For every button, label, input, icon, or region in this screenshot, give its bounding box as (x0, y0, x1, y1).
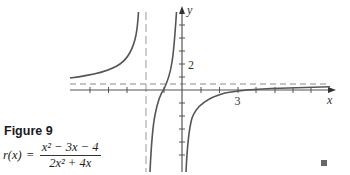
curve-right-branch (186, 87, 330, 172)
function-formula: r(x) = x² − 3x − 4 2x² + 4x (3, 141, 101, 170)
x-axis-label: x (326, 93, 333, 107)
y-tick-label-2: 2 (188, 58, 194, 72)
curve-left-branch (70, 12, 139, 78)
y-axis-label: y (186, 3, 193, 17)
y-axis-arrow-icon (179, 6, 185, 14)
formula-fraction: x² − 3x − 4 2x² + 4x (40, 141, 101, 170)
formula-denominator: 2x² + 4x (47, 156, 93, 170)
curve-middle-branch (150, 12, 177, 172)
formula-numerator: x² − 3x − 4 (40, 141, 101, 156)
x-tick-label-3: 3 (235, 94, 241, 108)
formula-equals: = (27, 148, 34, 163)
figure-label: Figure 9 (4, 124, 53, 138)
end-of-example-icon (321, 160, 327, 166)
formula-lhs: r(x) (3, 148, 22, 163)
